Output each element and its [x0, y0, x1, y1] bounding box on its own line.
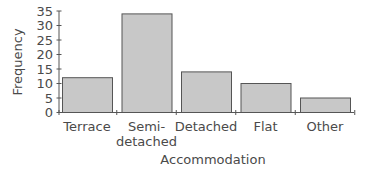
y-tick-label: 30	[36, 18, 53, 33]
x-tick-label: Detached	[175, 119, 238, 134]
y-tick-label: 5	[45, 91, 53, 106]
x-tick-label: Terrace	[62, 119, 110, 134]
bar-chart: 05101520253035 TerraceSemi-detachedDetac…	[0, 0, 372, 173]
y-tick-label: 15	[36, 62, 53, 77]
bar-terrace	[63, 78, 113, 113]
bar-other	[301, 98, 351, 113]
x-axis-title: Accommodation	[160, 152, 265, 167]
x-tick-label: Flat	[253, 119, 277, 134]
y-tick-label: 20	[36, 47, 53, 62]
x-axis: TerraceSemi-detachedDetachedFlatOther	[59, 110, 355, 149]
y-tick-label: 25	[36, 33, 53, 48]
y-axis: 05101520253035	[36, 4, 61, 121]
bar-semi-detached	[122, 14, 172, 113]
x-tick-label: Other	[307, 119, 345, 134]
bars	[63, 14, 351, 113]
x-tick-label: Semi-	[128, 119, 166, 134]
y-axis-title: Frequency	[10, 28, 25, 95]
y-tick-label: 0	[45, 105, 53, 120]
bar-detached	[182, 72, 232, 113]
bar-flat	[241, 84, 291, 113]
y-tick-label: 10	[36, 76, 53, 91]
y-tick-label: 35	[36, 4, 53, 19]
x-tick-label: detached	[116, 134, 177, 149]
